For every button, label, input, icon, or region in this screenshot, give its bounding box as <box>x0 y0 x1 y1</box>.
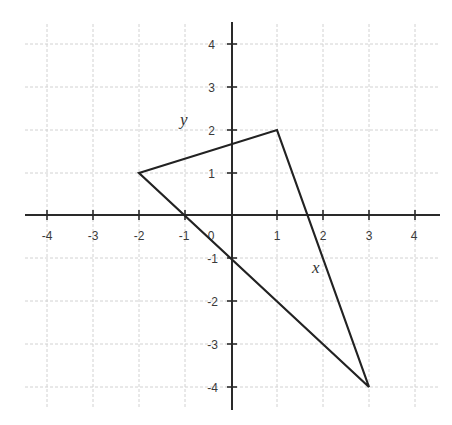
y-tick-label: 4 <box>208 38 215 52</box>
coordinate-plane: -4 -3 -2 -1 0 1 2 3 4 4 3 2 1 -1 -2 -3 -… <box>0 0 452 425</box>
x-tick-label: 1 <box>274 229 281 243</box>
y-tick-label: -2 <box>207 295 218 309</box>
x-variable-label: x <box>311 258 320 277</box>
x-tick-label: -2 <box>134 229 145 243</box>
x-tick-labels: -4 -3 -2 -1 0 1 2 3 4 <box>42 229 418 243</box>
x-tick-label: -3 <box>88 229 99 243</box>
x-tick-label: 4 <box>411 229 418 243</box>
x-tick-label: 2 <box>320 229 327 243</box>
y-tick-label: 2 <box>208 124 215 138</box>
y-tick-label: -4 <box>207 381 218 395</box>
y-tick-label: -1 <box>207 252 218 266</box>
y-tick-labels: 4 3 2 1 -1 -2 -3 -4 <box>207 38 218 395</box>
y-tick-label: -3 <box>207 338 218 352</box>
y-tick-label: 3 <box>208 81 215 95</box>
x-tick-label: -4 <box>42 229 53 243</box>
y-tick-label: 1 <box>208 167 215 181</box>
triangle <box>139 130 369 387</box>
y-variable-label: y <box>178 110 188 129</box>
x-tick-label: -1 <box>179 229 190 243</box>
x-tick-label: 3 <box>366 229 373 243</box>
